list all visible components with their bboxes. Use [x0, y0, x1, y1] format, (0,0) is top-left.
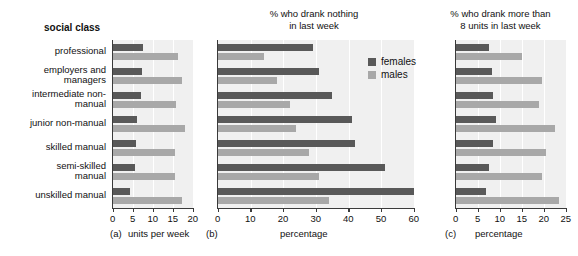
- bar-females: [218, 164, 385, 171]
- panel-c-axis-line: [455, 208, 566, 209]
- bar-group: [113, 88, 193, 112]
- axis-tick-label: 0: [110, 213, 115, 224]
- bar-females: [218, 140, 355, 147]
- axis-tick-label: 15: [516, 213, 527, 224]
- bar-group: [456, 88, 566, 112]
- bar-males: [113, 197, 182, 204]
- category-labels: professionalemployers andmanagersinterme…: [0, 40, 110, 208]
- figure-container: social class professionalemployers andma…: [0, 0, 578, 256]
- bar-males: [218, 173, 319, 180]
- bar-females: [218, 116, 352, 123]
- bar-group: [113, 64, 193, 88]
- axis-tick-label: 25: [560, 213, 571, 224]
- axis-tick: [113, 208, 114, 212]
- category-label: unskilled manual: [0, 190, 106, 201]
- bar-males: [456, 197, 559, 204]
- panel-c-title-line2: 8 units in last week: [460, 20, 540, 31]
- bar-males: [218, 101, 290, 108]
- category-label: semi-skilledmanual: [0, 161, 106, 182]
- axis-tick: [381, 208, 382, 212]
- bar-group: [218, 184, 414, 208]
- bar-males: [113, 149, 175, 156]
- axis-tick: [414, 208, 415, 212]
- axis-tick: [348, 208, 349, 212]
- bar-females: [113, 44, 143, 51]
- bar-males: [113, 101, 176, 108]
- axis-tick: [522, 208, 523, 212]
- axis-tick-label: 10: [245, 213, 256, 224]
- axis-tick-label: 50: [376, 213, 387, 224]
- bar-group: [456, 136, 566, 160]
- bar-group: [113, 40, 193, 64]
- bar-males: [456, 173, 542, 180]
- axis-tick: [544, 208, 545, 212]
- panel-c-plot-area: [455, 40, 566, 208]
- bar-males: [456, 53, 522, 60]
- legend-label-males: males: [381, 69, 408, 80]
- category-label: skilled manual: [0, 142, 106, 153]
- bar-males: [456, 101, 539, 108]
- bar-females: [218, 92, 332, 99]
- panel-b: % who drank nothing in last week 0102030…: [205, 0, 423, 256]
- panel-b-title: % who drank nothing in last week: [205, 8, 423, 31]
- gridline: [566, 40, 567, 208]
- bar-group: [218, 160, 414, 184]
- panel-a-letter: (a): [110, 228, 122, 239]
- legend-item-males: males: [368, 68, 416, 81]
- bar-group: [456, 112, 566, 136]
- axis-tick: [250, 208, 251, 212]
- axis-tick-label: 20: [538, 213, 549, 224]
- bar-group: [113, 112, 193, 136]
- bar-females: [218, 44, 313, 51]
- axis-tick-label: 5: [475, 213, 480, 224]
- legend-item-females: females: [368, 55, 416, 68]
- bar-males: [218, 149, 309, 156]
- panel-a-plot-area: [112, 40, 193, 208]
- bar-group: [113, 136, 193, 160]
- bar-group: [218, 136, 414, 160]
- axis-tick-label: 60: [408, 213, 419, 224]
- axis-tick: [173, 208, 174, 212]
- axis-tick: [153, 208, 154, 212]
- panel-b-title-line1: % who drank nothing: [270, 8, 359, 19]
- panel-c: % who drank more than 8 units in last we…: [423, 0, 578, 256]
- bar-females: [218, 188, 414, 195]
- axis-tick: [566, 208, 567, 212]
- axis-tick-label: 0: [215, 213, 220, 224]
- bar-females: [113, 68, 142, 75]
- category-label: professional: [0, 46, 106, 57]
- bar-males: [218, 197, 329, 204]
- panel-b-xlabel: percentage: [280, 228, 328, 239]
- legend-swatch-males-icon: [368, 71, 376, 79]
- bar-females: [113, 92, 141, 99]
- bar-females: [456, 44, 489, 51]
- bar-group: [456, 64, 566, 88]
- axis-tick: [218, 208, 219, 212]
- category-label: junior non-manual: [0, 118, 106, 129]
- panel-c-title-line1: % who drank more than: [450, 8, 550, 19]
- panel-a: social class professionalemployers andma…: [0, 0, 205, 256]
- bar-females: [456, 140, 493, 147]
- axis-tick: [456, 208, 457, 212]
- bar-group: [456, 40, 566, 64]
- legend: females males: [368, 55, 416, 81]
- axis-tick: [193, 208, 194, 212]
- bar-males: [113, 173, 175, 180]
- axis-tick-label: 40: [343, 213, 354, 224]
- bar-females: [113, 164, 135, 171]
- bar-males: [113, 77, 182, 84]
- legend-swatch-females-icon: [368, 58, 376, 66]
- bar-group: [113, 160, 193, 184]
- gridline: [193, 40, 194, 208]
- bar-females: [456, 116, 496, 123]
- bar-males: [218, 53, 264, 60]
- bar-females: [113, 116, 137, 123]
- panel-a-xlabel: units per week: [128, 228, 189, 239]
- bar-males: [113, 125, 185, 132]
- bar-group: [113, 184, 193, 208]
- axis-tick-label: 5: [130, 213, 135, 224]
- bar-females: [113, 188, 130, 195]
- bar-males: [456, 125, 555, 132]
- bar-females: [456, 164, 489, 171]
- panel-c-letter: (c): [445, 228, 456, 239]
